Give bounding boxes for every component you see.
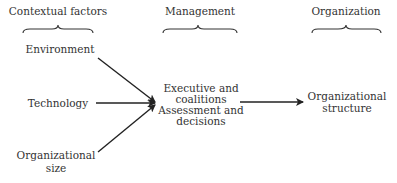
brace-contextual xyxy=(23,25,93,33)
node-environment: Environment xyxy=(20,43,100,55)
header-organization: Organization xyxy=(306,5,386,17)
node-org-size-1: Organizational xyxy=(13,149,99,161)
node-technology: Technology xyxy=(18,97,98,109)
node-org-structure-2: structure xyxy=(304,102,390,114)
arrow-environment xyxy=(98,58,155,102)
node-org-size-2: size xyxy=(13,162,99,174)
arrow-org-size xyxy=(98,105,155,152)
node-org-structure-1: Organizational xyxy=(304,90,390,102)
header-management: Management xyxy=(160,5,240,17)
header-contextual-factors: Contextual factors xyxy=(8,5,108,17)
brace-organization xyxy=(312,25,381,33)
node-management-4: decisions xyxy=(158,115,244,127)
brace-management xyxy=(163,25,237,33)
